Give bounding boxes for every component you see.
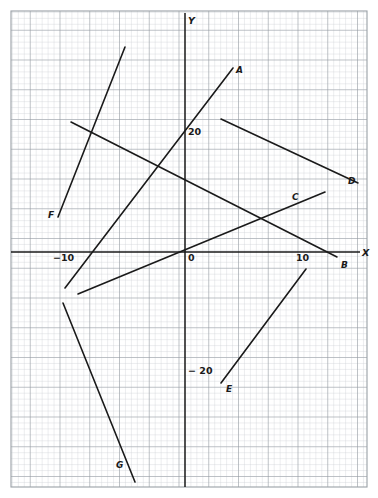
x-tick-label-0: 0 — [188, 253, 195, 263]
line-label-c: C — [292, 193, 299, 202]
x-tick-label-neg10: −10 — [53, 253, 74, 263]
y-axis-label: Y — [188, 16, 195, 26]
x-tick-label-10: 10 — [296, 253, 309, 263]
line-label-e: E — [226, 385, 232, 394]
line-label-b: B — [341, 261, 348, 270]
line-label-g: G — [116, 461, 123, 470]
graph-page: Y X −10 0 10 20 − 20 A B C D E F G — [0, 0, 378, 498]
x-axis-label: X — [362, 248, 369, 258]
y-tick-label-20: 20 — [188, 127, 201, 137]
coordinate-plane-svg — [0, 0, 378, 498]
y-tick-label-neg20: − 20 — [188, 366, 213, 376]
line-label-a: A — [236, 66, 243, 75]
line-label-d: D — [348, 177, 355, 186]
line-label-f: F — [48, 211, 54, 220]
